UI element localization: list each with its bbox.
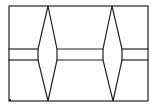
frame-rectangle <box>9 6 148 101</box>
lens-shapes <box>38 6 122 101</box>
corner-dot <box>9 99 11 101</box>
marks <box>9 99 11 101</box>
diagram-canvas <box>0 0 157 108</box>
horizontal-bar <box>9 49 148 60</box>
lens-right-shape <box>103 6 122 101</box>
lens-left-shape <box>38 6 57 101</box>
diagram-svg <box>0 0 157 108</box>
